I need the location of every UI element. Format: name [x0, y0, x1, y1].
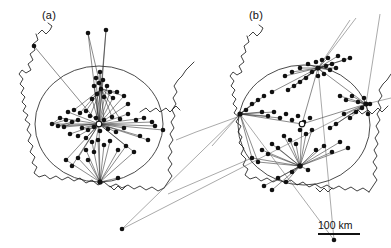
panel-label-a: (a): [42, 9, 56, 21]
cross-panel-long-edges: [122, 14, 391, 240]
scale-bar-rule: [318, 233, 360, 235]
network-map-svg: [0, 0, 391, 248]
scale-bar: 100 km: [318, 219, 380, 245]
scale-bar-label: 100 km: [318, 219, 380, 231]
panel-label-b: (b): [249, 9, 263, 21]
panel-a-edges: [34, 30, 163, 182]
panel-a-map-outline: [19, 23, 194, 191]
panel-a-node-markers: [32, 28, 166, 232]
figure-root: (a) (b) 100 km: [0, 0, 391, 248]
